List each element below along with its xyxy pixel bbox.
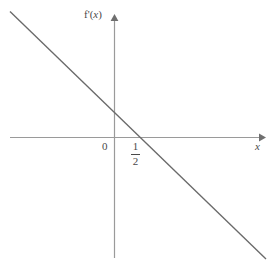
graph-figure: f'(x) 0 x 1 2 bbox=[0, 0, 270, 262]
y-axis-label: f'(x) bbox=[84, 9, 102, 20]
x-axis-arrowhead-icon bbox=[259, 134, 266, 142]
y-axis-arrowhead-icon bbox=[111, 14, 119, 21]
y-axis-label-prefix: f'( bbox=[84, 8, 93, 20]
x-axis-label: x bbox=[255, 141, 260, 152]
origin-label: 0 bbox=[102, 141, 108, 152]
fraction-numerator: 1 bbox=[132, 141, 140, 153]
x-intercept-label: 1 2 bbox=[131, 141, 140, 167]
y-axis-label-suffix: ) bbox=[98, 8, 102, 20]
derivative-line bbox=[10, 12, 266, 260]
plot-canvas bbox=[0, 0, 270, 262]
fraction-denominator: 2 bbox=[132, 156, 140, 168]
y-axis bbox=[111, 14, 119, 258]
